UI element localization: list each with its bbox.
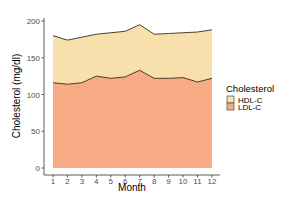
y-tick-label: 100 xyxy=(27,91,41,100)
plot-areas xyxy=(53,25,212,168)
stacked-area-chart: 050100150200 123456789101112 Month Chole… xyxy=(0,0,293,203)
x-tick-label: 11 xyxy=(193,177,202,186)
x-tick-label: 9 xyxy=(166,177,171,186)
x-tick-label: 1 xyxy=(51,177,56,186)
x-tick-label: 2 xyxy=(65,177,70,186)
legend-swatch-ldl xyxy=(227,103,234,110)
y-tick-label: 150 xyxy=(27,54,41,63)
legend-swatch-hdl xyxy=(227,96,234,103)
x-axis-title: Month xyxy=(118,182,146,193)
y-tick-label: 0 xyxy=(36,164,41,173)
x-tick-label: 8 xyxy=(152,177,157,186)
x-tick-label: 5 xyxy=(109,177,114,186)
y-tick-label: 200 xyxy=(27,17,41,26)
y-axis-ticks: 050100150200 xyxy=(27,17,44,173)
legend-label-ldl: LDL-C xyxy=(238,103,261,112)
legend-title: Cholesterol xyxy=(226,83,274,94)
x-tick-label: 4 xyxy=(94,177,99,186)
x-tick-label: 12 xyxy=(207,177,216,186)
area-ldl xyxy=(53,70,212,168)
x-tick-label: 3 xyxy=(80,177,85,186)
y-tick-label: 50 xyxy=(31,127,40,136)
legend: Cholesterol HDL-C LDL-C xyxy=(226,83,274,112)
y-axis-title: Cholesterol (mg/dl) xyxy=(11,54,22,138)
x-tick-label: 10 xyxy=(179,177,188,186)
